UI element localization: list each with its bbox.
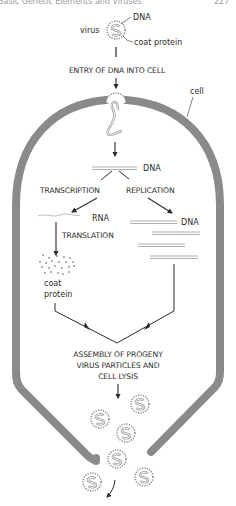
virus-icon xyxy=(108,450,126,468)
virus-dna-label: DNA xyxy=(133,13,151,22)
cell-leader-line xyxy=(187,97,193,117)
dna-strand xyxy=(92,167,137,170)
release-arrow-icon xyxy=(107,480,115,497)
coat-protein-label-line1: coat xyxy=(44,279,61,288)
rna-strand xyxy=(38,214,80,216)
assembly-label-line1: ASSEMBLY OF PROGENY xyxy=(73,350,163,359)
coat-protein-dots xyxy=(39,254,75,275)
docked-virus-icon xyxy=(106,93,126,135)
rna-label: RNA xyxy=(92,214,110,223)
arrowhead-icon xyxy=(144,322,150,330)
step-entry-label: ENTRY OF DNA INTO CELL xyxy=(69,66,166,75)
running-title: Basic Genetic Elements and Viruses xyxy=(0,0,142,6)
dna-leader-line xyxy=(121,17,131,24)
transcription-label: TRANSCRIPTION xyxy=(39,186,100,195)
cell-label: cell xyxy=(190,87,204,96)
virus-icon xyxy=(131,395,149,413)
assembly-label-line3: CELL LYSIS xyxy=(98,372,138,381)
virus-coat-label: coat protein xyxy=(134,38,182,47)
assembly-label-line2: VIRUS PARTICLES AND xyxy=(77,361,160,370)
coat-leader-line xyxy=(123,36,133,42)
virus-icon xyxy=(107,21,125,39)
replicated-dna-label: DNA xyxy=(181,218,199,227)
page-number: 227 xyxy=(214,0,229,6)
virus-icon xyxy=(83,473,101,491)
branch-line xyxy=(101,171,112,180)
dna-label: DNA xyxy=(143,164,161,173)
virus-lifecycle-diagram: Basic Genetic Elements and Viruses 227 v… xyxy=(0,0,236,506)
translation-label: TRANSLATION xyxy=(61,231,114,240)
replication-label: REPLICATION xyxy=(126,186,174,195)
virus-icon xyxy=(135,468,153,486)
virus-label: virus xyxy=(80,26,99,35)
progeny-viruses xyxy=(83,395,153,491)
arrow-icon xyxy=(72,198,97,212)
virus-icon xyxy=(91,410,109,428)
virus-icon xyxy=(117,424,135,442)
page-header: Basic Genetic Elements and Viruses 227 xyxy=(0,0,229,6)
branch-line xyxy=(119,171,129,179)
arrowhead-icon xyxy=(84,322,90,330)
converging-arrows xyxy=(55,264,174,343)
coat-protein-label-line2: protein xyxy=(44,290,72,299)
arrow-icon xyxy=(148,198,172,213)
